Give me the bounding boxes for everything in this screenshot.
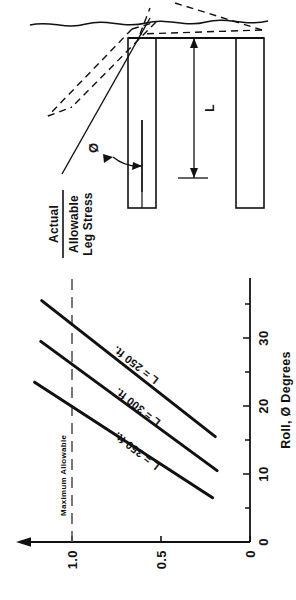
stress-ratio-fraction: Actual Allowable Leg Stress [47,190,95,258]
fraction-denominator-line1: Allowable [67,195,81,253]
schematic-panel: Actual Allowable Leg Stress [0,0,296,270]
series-line-L250 [42,301,216,437]
fraction-denominator-line2: Leg Stress [81,192,95,255]
x-tick-label-20: 20 [256,398,271,413]
length-label-L: L [203,104,217,111]
hull-lower-bar [236,38,264,208]
x-axis [243,278,250,542]
y-tick-label-0-5: 0.5 [154,550,169,569]
tilted-hull-cap-top [48,107,72,116]
dim-arrow-right [190,38,198,48]
dim-arrow-left [190,168,198,178]
y-tick-label-0: 0 [243,550,258,558]
y-tick-label-1-0: 1.0 [65,550,80,569]
angle-label-phi: Ø [86,143,101,153]
fraction-numerator: Actual [47,205,61,243]
angle-arrow-upper [103,154,113,163]
figure-root: 0 0.5 1.0 0 [0,0,296,600]
x-axis-title: Roll, Ø Degrees [279,351,293,449]
y-axis [16,536,250,547]
series-label-L350: L = 350 ft. [112,430,162,473]
series-label-L250: L = 250 ft. [111,344,161,387]
tilted-configuration-dashed [48,2,262,116]
roll-angle-group: Ø [62,18,150,192]
x-tick-label-0: 0 [256,538,271,546]
series-label-L300: L = 300 ft. [113,386,163,429]
angle-arrow-lower [132,162,142,170]
length-dimension-group: L [178,38,217,178]
angle-inclined-ray [62,18,150,174]
chart-panel: 0 0.5 1.0 0 [0,270,296,600]
x-tick-label-30: 30 [256,330,271,345]
stress-vs-roll-chart: 0 0.5 1.0 0 [0,270,296,600]
rotated-figure-canvas: 0 0.5 1.0 0 [0,0,296,600]
x-tick-label-10: 10 [256,466,271,481]
jackup-leg-roll-diagram: Actual Allowable Leg Stress [0,0,296,270]
maximum-allowable-label: Maximum Allowable [59,434,68,516]
y-axis-arrowhead [16,537,31,547]
